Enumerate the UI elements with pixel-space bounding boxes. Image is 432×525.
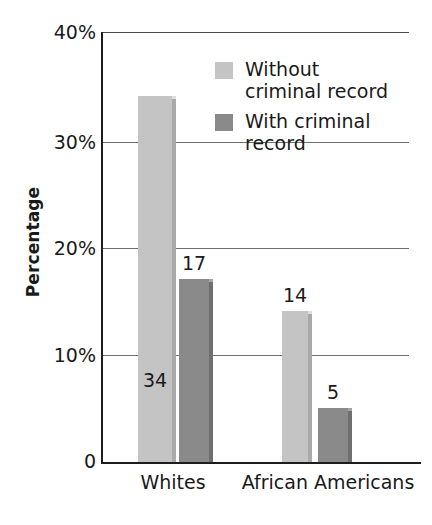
x-axis-line-extension — [409, 462, 421, 464]
y-tick-label-30: 30% — [32, 133, 96, 152]
x-axis-label-whites: Whites — [113, 473, 233, 492]
bar-face — [318, 408, 348, 462]
y-tick-label-10: 10% — [32, 346, 96, 365]
bar-side-bevel — [172, 99, 176, 462]
bar-value-label-whites-without: 34 — [128, 371, 182, 390]
y-axis-line — [101, 32, 103, 463]
x-axis-label-african-americans: African Americans — [228, 473, 428, 492]
legend-item-without-criminal-record: Without criminal record — [215, 58, 425, 103]
legend-label-line-1: Without — [245, 58, 319, 80]
bar-value-label-african-americans-without: 14 — [268, 286, 322, 305]
gridline-40 — [101, 32, 409, 33]
legend-label-with-criminal-record: With criminal record — [245, 110, 425, 155]
bar-whites-with-criminal-record — [179, 279, 209, 462]
bar-value-label-african-americans-with: 5 — [306, 383, 360, 402]
bar-whites-without-criminal-record — [138, 96, 172, 462]
bar-value-label-whites-with: 17 — [167, 254, 221, 273]
legend-swatch-dark-icon — [215, 114, 233, 131]
bar-side-bevel — [348, 411, 352, 462]
legend-label-without-criminal-record: Without criminal record — [245, 58, 425, 103]
x-axis-line — [101, 462, 421, 464]
legend-label-line-2: record — [245, 132, 306, 154]
bar-face — [138, 96, 172, 462]
legend-label-line-1: With criminal — [245, 110, 370, 132]
chart-legend: Without criminal record With criminal re… — [215, 58, 425, 162]
y-tick-label-40: 40% — [32, 23, 96, 42]
y-tick-label-0: 0 — [32, 452, 96, 471]
legend-item-with-criminal-record: With criminal record — [215, 110, 425, 155]
y-tick-label-20: 20% — [32, 239, 96, 258]
bar-african-americans-without-criminal-record — [282, 311, 308, 462]
legend-swatch-light-icon — [215, 62, 233, 79]
legend-label-line-2: criminal record — [245, 80, 388, 102]
bar-chart-figure: Percentage 40% 30% 20% 10% 0 34 — [0, 0, 432, 525]
bar-side-bevel — [209, 282, 213, 462]
bar-face — [179, 279, 209, 462]
bar-face — [282, 311, 308, 462]
bar-african-americans-with-criminal-record — [318, 408, 348, 462]
y-axis-tick-labels: 40% 30% 20% 10% 0 — [28, 0, 96, 525]
